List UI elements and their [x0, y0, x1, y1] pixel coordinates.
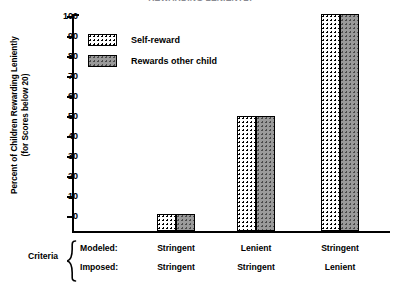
bar [176, 214, 195, 231]
y-axis-title-line2: (for Scores below 20) [20, 36, 31, 194]
y-tick-label: 90 [54, 32, 78, 41]
y-tick-label: 0 [54, 212, 78, 221]
y-axis-title: Percent of Children Rewarding Leniently … [0, 8, 40, 222]
x-axis-criteria-label: Criteria [28, 251, 58, 261]
x-axis-label-block: Criteria Modeled: Imposed: StringentLeni… [0, 238, 402, 286]
bar-chart-figure: REWARDING LENIENTLY Percent of Children … [0, 0, 402, 288]
row-label-modeled: Modeled: [80, 243, 118, 253]
bar-group [321, 27, 359, 231]
y-tick-label: 50 [54, 112, 78, 121]
x-axis-line [72, 231, 390, 233]
bar [321, 14, 340, 231]
chart-title-cropped: REWARDING LENIENTLY [0, 0, 402, 6]
bar [340, 14, 359, 231]
x-axis-category-label: Stringent [217, 262, 295, 272]
y-tick-label: 40 [54, 132, 78, 141]
legend-item-self-reward: Self-reward [88, 29, 278, 50]
criteria-brace-icon [66, 240, 77, 282]
legend-label-self-reward: Self-reward [131, 35, 180, 45]
y-tick-label: 80 [54, 52, 78, 61]
legend-label-rewards-other-child: Rewards other child [131, 56, 217, 66]
x-axis-category-label: Lenient [217, 243, 295, 253]
x-axis-category-label: Stringent [137, 243, 215, 253]
legend-swatch-self-reward [88, 34, 117, 46]
chart-title-text: REWARDING LENIENTLY [0, 0, 402, 3]
bar [256, 116, 275, 231]
legend-swatch-rewards-other-child [88, 55, 117, 67]
x-axis-category-label: Lenient [301, 262, 379, 272]
chart-legend: Self-reward Rewards other child [88, 29, 278, 71]
y-tick-label: 20 [54, 172, 78, 181]
y-tick-label: 10 [54, 192, 78, 201]
y-tick-label: 100 [54, 12, 78, 21]
legend-item-rewards-other-child: Rewards other child [88, 50, 278, 71]
x-axis-category-label: Stringent [137, 262, 215, 272]
x-axis-category-label: Stringent [301, 243, 379, 253]
y-axis-title-line1: Percent of Children Rewarding Leniently [10, 36, 21, 194]
bar [237, 116, 256, 231]
y-tick-label: 70 [54, 72, 78, 81]
bar [157, 214, 176, 231]
row-label-imposed: Imposed: [80, 262, 118, 272]
y-tick-label: 60 [54, 92, 78, 101]
y-tick-label: 30 [54, 152, 78, 161]
